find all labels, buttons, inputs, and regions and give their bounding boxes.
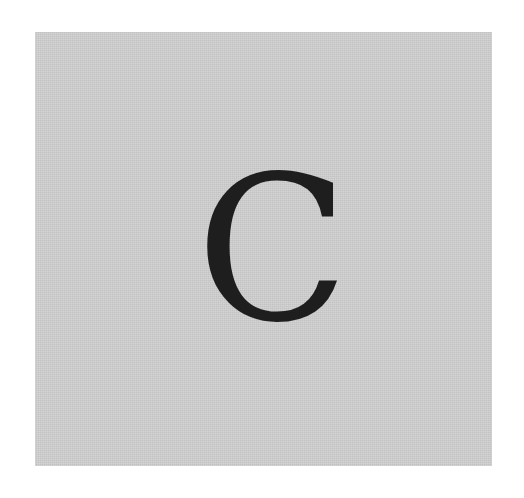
letter-glyph: C <box>196 150 346 350</box>
